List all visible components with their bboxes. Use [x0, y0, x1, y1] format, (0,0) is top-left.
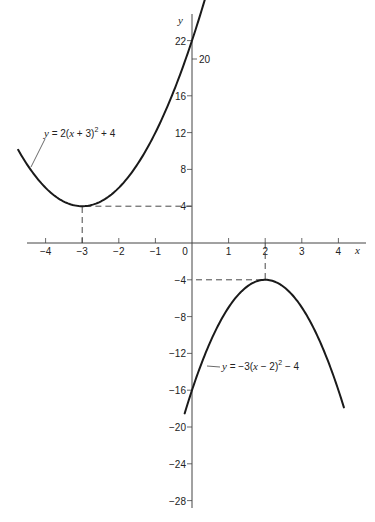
y-tick-label: 16	[175, 91, 187, 102]
y-tick-label: −8	[175, 312, 187, 323]
parabola-chart: −4−3−2−1012342220161284−4−8−12−16−20−24−…	[0, 0, 375, 522]
x-tick-label: −3	[76, 246, 88, 257]
y-tick-label: 12	[175, 128, 187, 139]
y-tick-label: −4	[175, 275, 187, 286]
downward-parabola-curve	[185, 280, 344, 414]
y-tick-label: 8	[180, 164, 186, 175]
y-tick-label: 22	[175, 36, 187, 47]
eq2-leader-line	[207, 366, 220, 367]
eq1-label: y = 2(x + 3)2 + 4	[43, 126, 116, 139]
ticks: −4−3−2−1012342220161284−4−8−12−16−20−24−…	[40, 36, 342, 507]
y-tick-label: 20	[199, 54, 211, 65]
equation-labels: y = 2(x + 3)2 + 4 y = −3(x − 2)2 − 4 x y	[31, 14, 360, 372]
vertex-guide	[82, 206, 192, 243]
x-axis-label: x	[354, 244, 360, 256]
y-tick-label: −20	[169, 422, 186, 433]
x-tick-label: 4	[336, 246, 342, 257]
y-tick-label: −28	[169, 496, 186, 507]
x-tick-label: −1	[150, 246, 162, 257]
eq2-label: y = −3(x − 2)2 − 4	[221, 359, 300, 372]
y-tick-label: −16	[169, 385, 186, 396]
x-tick-label: 3	[299, 246, 305, 257]
x-tick-label: −2	[113, 246, 125, 257]
x-tick-label: 0	[182, 246, 188, 257]
y-tick-label: −12	[169, 348, 186, 359]
x-tick-label: 1	[226, 246, 232, 257]
y-axis-label: y	[177, 14, 183, 26]
axes	[27, 14, 366, 508]
y-tick-label: −24	[169, 459, 186, 470]
y-tick-label: 4	[180, 201, 186, 212]
x-tick-label: −4	[40, 246, 52, 257]
eq1-leader-line	[31, 139, 45, 167]
upward-parabola-curve	[18, 0, 205, 206]
